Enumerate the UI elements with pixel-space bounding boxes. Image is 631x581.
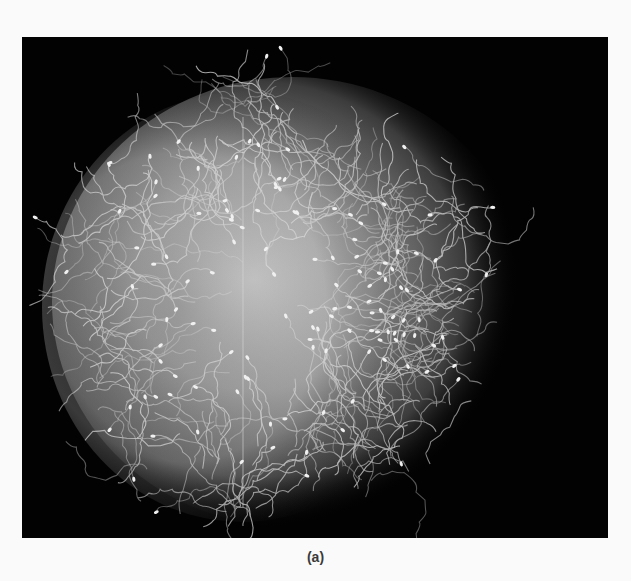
egg-and-sperm-illustration [22, 37, 608, 538]
figure-caption: (a) [0, 549, 631, 565]
micrograph-image [22, 37, 608, 538]
